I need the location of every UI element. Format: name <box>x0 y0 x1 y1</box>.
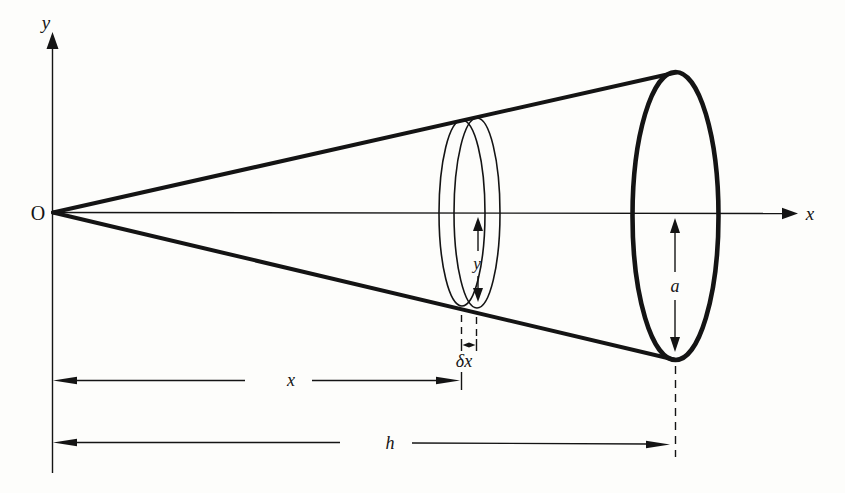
base-radius-label: a <box>671 276 680 296</box>
y-axis-label: y <box>40 12 51 33</box>
base-radius-arrow: a <box>670 218 680 352</box>
cone-volume-diagram: y x O y a <box>0 0 845 493</box>
height-dimension: h <box>53 366 676 457</box>
cone-lower-edge <box>53 213 676 361</box>
disc-radius-label: y <box>471 254 481 273</box>
distance-label: x <box>286 370 295 390</box>
cone-figure-svg: y x O y a <box>0 0 845 493</box>
thickness-right-arrowhead-icon <box>469 343 476 348</box>
distance-left-arrowhead-icon <box>53 377 77 385</box>
origin-label: O <box>31 202 45 224</box>
cone-outline <box>53 72 719 360</box>
base-radius-down-arrowhead-icon <box>670 337 680 352</box>
y-axis-arrowhead-icon <box>47 32 59 49</box>
disc-thickness-callout: δx <box>456 315 477 371</box>
disc-radius-down-arrowhead-icon <box>473 288 483 302</box>
distance-right-arrowhead-icon <box>436 377 460 385</box>
y-axis: y <box>40 12 59 473</box>
x-axis: x <box>52 203 815 224</box>
x-axis-line <box>52 213 785 214</box>
disc-thickness-label: δx <box>456 351 472 371</box>
thickness-left-arrowhead-icon <box>463 343 470 348</box>
x-axis-arrowhead-icon <box>782 208 798 219</box>
base-radius-up-arrowhead-icon <box>670 218 680 233</box>
x-axis-label: x <box>805 203 815 224</box>
height-shaft-right <box>412 443 648 444</box>
distance-dimension: x <box>53 370 462 390</box>
height-label: h <box>386 433 395 453</box>
height-right-arrowhead-icon <box>646 441 670 449</box>
disc-radius-up-arrowhead-icon <box>473 217 483 231</box>
cone-upper-edge <box>53 73 676 213</box>
height-left-arrowhead-icon <box>53 439 77 447</box>
